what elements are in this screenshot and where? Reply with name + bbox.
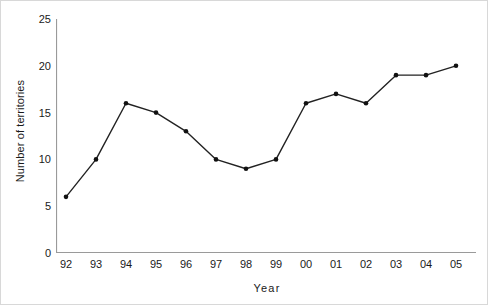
data-point-marker [364, 101, 369, 106]
data-point-marker [394, 73, 399, 78]
data-point-marker [244, 166, 249, 171]
x-tick-label: 94 [109, 259, 143, 270]
y-tick-label: 20 [25, 60, 51, 71]
y-tick-label: 10 [25, 154, 51, 165]
x-tick-label: 96 [169, 259, 203, 270]
x-tick-label: 92 [49, 259, 83, 270]
x-tick-label: 98 [229, 259, 263, 270]
plot-area [56, 19, 476, 253]
data-point-marker [304, 101, 309, 106]
data-point-marker [94, 157, 99, 162]
data-point-marker [64, 195, 69, 200]
x-tick-label: 03 [379, 259, 413, 270]
x-tick-label: 95 [139, 259, 173, 270]
x-tick-label: 01 [319, 259, 353, 270]
data-point-marker [184, 129, 189, 134]
x-tick-label: 99 [259, 259, 293, 270]
x-axis-title: Year [57, 282, 477, 294]
data-series-line [66, 66, 456, 197]
y-tick-label: 25 [25, 14, 51, 25]
data-point-marker [454, 64, 459, 69]
y-tick-label: 0 [25, 248, 51, 259]
data-point-marker [124, 101, 129, 106]
data-point-markers [64, 64, 459, 200]
y-axis-tick-labels: 0510152025 [23, 19, 51, 253]
x-axis-tick-labels: 9293949596979899000102030405 [56, 259, 476, 275]
axis-lines [56, 19, 476, 253]
data-point-marker [274, 157, 279, 162]
y-tick-label: 15 [25, 107, 51, 118]
x-tick-label: 97 [199, 259, 233, 270]
y-tick-label: 5 [25, 201, 51, 212]
data-point-marker [334, 92, 339, 97]
data-point-marker [154, 110, 159, 115]
data-point-marker [214, 157, 219, 162]
plot-svg [56, 19, 476, 253]
x-tick-label: 02 [349, 259, 383, 270]
line-chart: Number of territories 0510152025 9293949… [0, 0, 488, 305]
data-point-marker [424, 73, 429, 78]
x-tick-label: 93 [79, 259, 113, 270]
x-tick-label: 05 [439, 259, 473, 270]
x-tick-label: 04 [409, 259, 443, 270]
x-tick-label: 00 [289, 259, 323, 270]
